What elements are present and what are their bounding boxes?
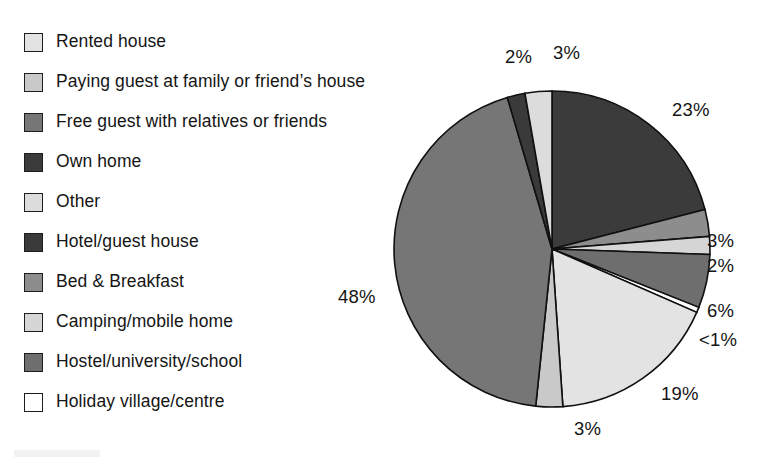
pie-chart-svg[interactable] bbox=[0, 0, 781, 460]
scan-artifact bbox=[14, 450, 100, 457]
pie-chart-plot-area: 23%3%2%6%<1%19%3%48%2%3% bbox=[0, 0, 781, 460]
pie-chart-figure: Rented housePaying guest at family or fr… bbox=[0, 0, 781, 460]
